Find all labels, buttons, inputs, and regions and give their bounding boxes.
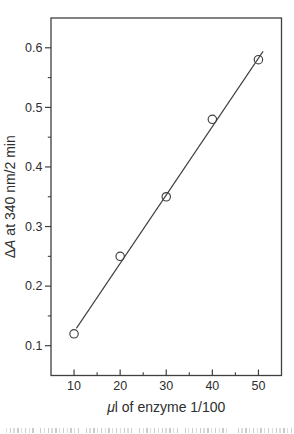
x-tick-label: 30 — [159, 379, 173, 393]
y-tick-label: 0.5 — [25, 101, 42, 115]
data-point — [254, 56, 262, 64]
y-tick-label: 0.6 — [25, 41, 42, 55]
x-tick-label: 50 — [251, 379, 265, 393]
data-point — [208, 115, 216, 123]
enzyme-assay-figure: 10203040500.10.20.30.40.50.6μl of enzyme… — [0, 0, 294, 434]
data-point — [70, 330, 78, 338]
enzyme-linearity-chart: 10203040500.10.20.30.40.50.6μl of enzyme… — [0, 0, 294, 424]
plot-frame — [51, 18, 282, 376]
cropped-caption-text-fragment — [2, 428, 292, 433]
x-tick-label: 20 — [113, 379, 127, 393]
y-tick-label: 0.4 — [25, 160, 42, 174]
data-point — [116, 252, 124, 260]
x-axis-title: μl of enzyme 1/100 — [106, 399, 225, 415]
y-tick-label: 0.1 — [25, 339, 42, 353]
x-tick-label: 40 — [205, 379, 219, 393]
data-point — [162, 193, 170, 201]
y-tick-label: 0.3 — [25, 220, 42, 234]
y-tick-label: 0.2 — [25, 279, 42, 293]
x-tick-label: 10 — [67, 379, 81, 393]
y-axis-title: ΔA at 340 nm/2 min — [2, 135, 18, 258]
fit-line — [76, 51, 263, 328]
